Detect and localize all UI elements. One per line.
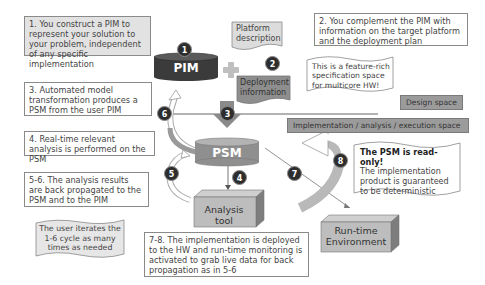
note-step-2: 2. You complement the PIM with informati… (314, 13, 468, 46)
step-badge-8: 8 (333, 153, 348, 168)
psm-label: PSM (194, 146, 260, 160)
note-step-4: 4. Real-time relevant analysis is perfor… (24, 131, 155, 156)
callout-iterate-text: The user iterates the 1-6 cycle as many … (39, 224, 121, 252)
step-badge-1: 1 (177, 42, 192, 57)
deployment-information-text: Deployment information (240, 78, 289, 97)
callout-iterate: The user iterates the 1-6 cycle as many … (38, 224, 122, 253)
platform-description-text: Platform description (236, 24, 280, 43)
note-step-2-text: 2. You complement the PIM with informati… (319, 16, 460, 46)
platform-description: Platform description (236, 24, 282, 44)
note-step-7-8: 7-8. The implementation is deployed to t… (144, 232, 309, 277)
callout-readonly-body: The implementation product is guaranteed… (360, 167, 458, 197)
callout-feature-rich-text: This is a feature-rich specification spa… (312, 62, 390, 90)
runtime-env-label: Run-time Environment (322, 225, 390, 247)
step-badge-7: 7 (287, 166, 302, 181)
pim-label: PIM (153, 61, 219, 75)
callout-readonly-title: The PSM is read-only! (360, 147, 458, 167)
callout-readonly: The PSM is read-only! The implementation… (360, 147, 458, 197)
implementation-space-label: Implementation / analysis / execution sp… (287, 118, 469, 133)
note-step-7-8-text: 7-8. The implementation is deployed to t… (149, 235, 302, 275)
note-step-5-6-text: 5-6. The analysis results are back propa… (29, 175, 141, 205)
step-badge-5: 5 (164, 166, 179, 181)
note-step-1: 1. You construct a PIM to represent your… (24, 16, 151, 56)
note-step-3-text: 3. Automated model transformation produc… (29, 85, 138, 115)
step-badge-2: 2 (265, 56, 280, 71)
step-badge-3: 3 (220, 106, 235, 121)
note-step-3: 3. Automated model transformation produc… (24, 82, 152, 116)
step-badge-6: 6 (157, 106, 172, 121)
callout-feature-rich: This is a feature-rich specification spa… (312, 62, 390, 90)
step-badge-4: 4 (232, 170, 247, 185)
note-step-5-6: 5-6. The analysis results are back propa… (24, 172, 149, 207)
analysis-tool-label: Analysis tool (198, 204, 250, 226)
design-space-label: Design space (400, 95, 463, 110)
deployment-information: Deployment information (240, 78, 292, 98)
